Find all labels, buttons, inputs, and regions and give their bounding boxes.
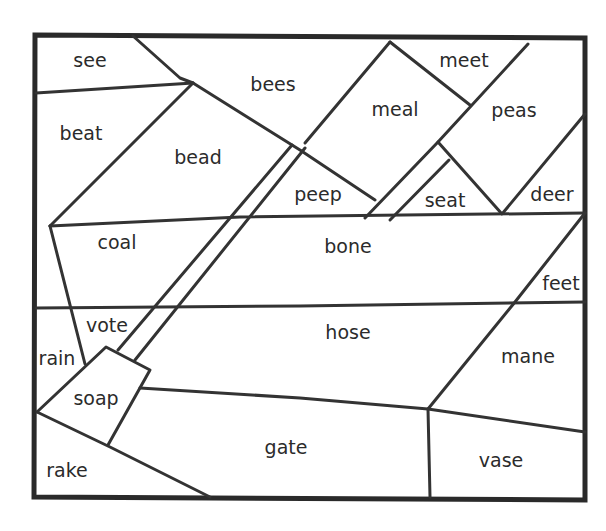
region-label: gate <box>265 438 308 457</box>
region-label: peep <box>294 185 342 204</box>
region-label: feet <box>542 274 580 293</box>
region-label: see <box>73 51 106 70</box>
region-label: coal <box>98 233 137 252</box>
region-label: bead <box>174 148 221 167</box>
region-label: seat <box>425 191 466 210</box>
region-label: deer <box>530 185 573 204</box>
region-label: beat <box>60 124 103 143</box>
region-label: rake <box>46 461 87 480</box>
region-label: mane <box>501 347 555 366</box>
region-label: bone <box>324 237 371 256</box>
region-label: soap <box>73 389 118 408</box>
region-label: vote <box>86 316 128 335</box>
region-label: vase <box>479 451 523 470</box>
region-label: meal <box>371 100 418 119</box>
region-label: rain <box>39 349 76 368</box>
region-label: peas <box>491 101 536 120</box>
region-label: bees <box>250 75 295 94</box>
color-by-word-worksheet: see bees meet meal peas beat bead peep s… <box>0 0 606 531</box>
region-label: hose <box>325 323 370 342</box>
region-label: meet <box>439 51 488 70</box>
